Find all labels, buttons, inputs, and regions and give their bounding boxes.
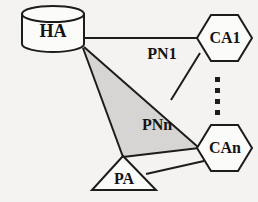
- vertical-ellipsis-icon: [215, 77, 220, 115]
- link-pa-can-lower: [146, 161, 204, 174]
- ha-label: HA: [40, 21, 67, 41]
- pn1-label: PN1: [147, 45, 176, 62]
- ellipsis-dot: [215, 99, 220, 104]
- node-ca1[interactable]: CA1: [197, 15, 252, 61]
- ellipsis-dot: [215, 110, 220, 115]
- node-can[interactable]: CAn: [197, 125, 252, 171]
- pa-label: PA: [114, 170, 135, 187]
- diagram-canvas: HA CA1 CAn PA PN1 PNn: [0, 0, 258, 202]
- ha-cylinder-top: [22, 6, 84, 22]
- ca1-label: CA1: [209, 29, 240, 46]
- shaded-pn-region: [84, 47, 197, 157]
- ellipsis-dot: [215, 77, 220, 82]
- can-label: CAn: [209, 139, 241, 156]
- pnn-label: PNn: [142, 116, 172, 133]
- node-ha[interactable]: HA: [22, 6, 84, 52]
- network-topology-diagram: HA CA1 CAn PA PN1 PNn: [0, 0, 258, 202]
- ellipsis-dot: [215, 88, 220, 93]
